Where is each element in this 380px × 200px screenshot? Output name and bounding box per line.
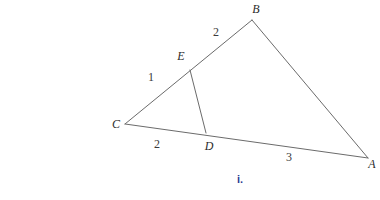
edge-CA [125, 124, 368, 158]
geometry-figure-screenshot: B E C D A 1 2 2 3 i. [0, 0, 380, 200]
figure-caption: i. [237, 174, 243, 185]
segment-length-CE: 1 [148, 71, 154, 83]
vertex-label-A: A [368, 158, 375, 170]
vertex-label-E: E [177, 50, 184, 62]
triangle-diagram-svg [0, 0, 380, 200]
segment-length-EB: 2 [213, 26, 219, 38]
vertex-label-B: B [252, 3, 259, 15]
segment-length-DA: 3 [286, 151, 292, 163]
vertex-label-C: C [112, 118, 120, 130]
edge-CB [125, 20, 252, 124]
edge-ED-cevian [190, 70, 206, 133]
edge-BA [252, 20, 368, 158]
segment-length-CD: 2 [154, 138, 160, 150]
vertex-label-D: D [205, 140, 214, 152]
